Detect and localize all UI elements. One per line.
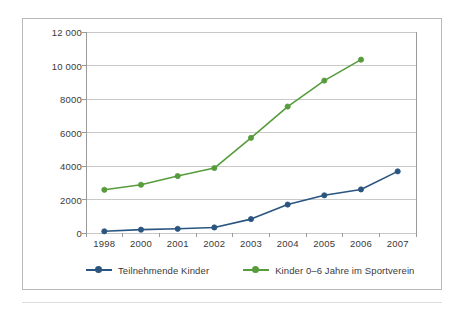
y-tick-label: 10 000 (52, 60, 82, 71)
chart-legend: Teilnehmende Kinder Kinder 0–6 Jahre im … (86, 262, 416, 278)
x-tick-label: 2001 (167, 238, 189, 249)
legend-label-0: Teilnehmende Kinder (118, 265, 209, 276)
series-lines (104, 60, 397, 232)
legend-marker-icon-blue (86, 265, 112, 275)
y-tick-label: 12 000 (52, 27, 82, 38)
legend-entry-teilnehmende-kinder: Teilnehmende Kinder (86, 265, 209, 276)
x-tick-label: 2003 (240, 238, 262, 249)
series-markers (102, 57, 401, 234)
gridlines (86, 32, 416, 233)
legend-label-1: Kinder 0–6 Jahre im Sportverein (275, 265, 414, 276)
x-tick-label: 2004 (277, 238, 299, 249)
x-tick-label: 2005 (313, 238, 335, 249)
y-tick-label: 4000 (60, 161, 82, 172)
y-tick-label: 2000 (60, 194, 82, 205)
x-axis-ticks (86, 233, 416, 237)
legend-entry-kinder-sportverein: Kinder 0–6 Jahre im Sportverein (243, 265, 414, 276)
x-tick-label: 2000 (130, 238, 152, 249)
chart-page: 0200040006000800010 00012 000 1998200020… (0, 0, 461, 310)
x-tick-label: 2006 (350, 238, 372, 249)
x-tick-label: 2007 (387, 238, 409, 249)
y-axis-ticks (82, 32, 86, 233)
x-tick-label: 1998 (93, 238, 115, 249)
x-tick-label: 2002 (203, 238, 225, 249)
y-tick-label: 8000 (60, 94, 82, 105)
legend-marker-icon-green (243, 265, 269, 275)
x-axis-tick-labels: 199820002001200220032004200520062007 (0, 238, 461, 254)
y-tick-label: 0 (77, 228, 82, 239)
y-axis-tick-labels: 0200040006000800010 00012 000 (30, 0, 82, 310)
y-tick-label: 6000 (60, 127, 82, 138)
